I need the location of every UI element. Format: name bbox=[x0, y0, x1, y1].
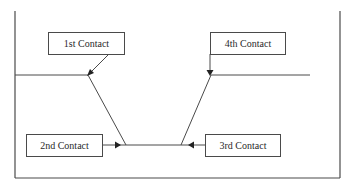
arrow-icon bbox=[188, 142, 194, 149]
second-contact-label: 2nd Contact bbox=[40, 140, 89, 151]
third-contact-label: 3rd Contact bbox=[220, 140, 267, 151]
arrow-icon bbox=[115, 142, 121, 149]
first-contact-box: 1st Contact bbox=[48, 32, 125, 55]
first-contact-label: 1st Contact bbox=[64, 38, 109, 49]
first-contact-connector bbox=[90, 55, 108, 73]
fourth-contact-label: 4th Contact bbox=[225, 38, 271, 49]
contact-diagram: 1st Contact 4th Contact 2nd Contact 3rd … bbox=[0, 0, 353, 184]
third-contact-box: 3rd Contact bbox=[205, 134, 281, 157]
second-contact-box: 2nd Contact bbox=[26, 134, 103, 157]
fourth-contact-box: 4th Contact bbox=[210, 32, 286, 55]
